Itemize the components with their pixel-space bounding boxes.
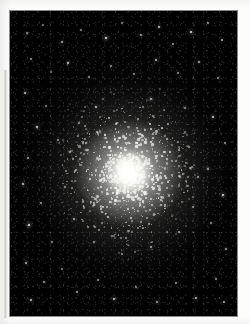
globular-cluster-photograph — [10, 11, 237, 316]
cluster-core — [106, 152, 152, 194]
left-margin-rule — [4, 70, 7, 318]
scanned-page — [0, 0, 250, 324]
